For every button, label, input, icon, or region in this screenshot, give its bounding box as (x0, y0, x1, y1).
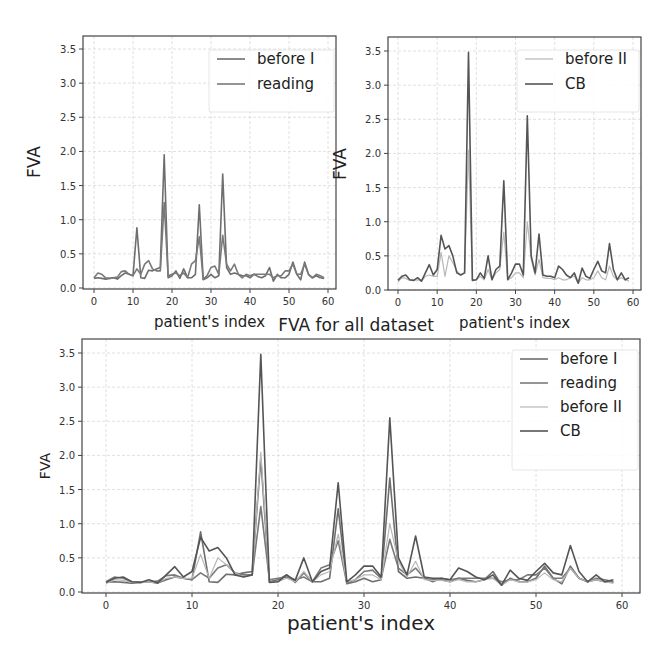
series-line-reading (94, 203, 324, 280)
y-tick-label: 3.5 (59, 348, 75, 359)
x-tick-label: 20 (470, 297, 483, 308)
chart-figure: 01020304050600.00.51.01.52.02.53.03.5pat… (0, 0, 671, 664)
legend-label: before II (565, 50, 627, 68)
x-tick-label: 10 (127, 296, 140, 307)
y-tick-label: 3.5 (365, 46, 381, 57)
y-tick-label: 2.5 (60, 112, 76, 123)
y-tick-label: 0.5 (365, 251, 381, 262)
series-line-before-i (106, 459, 613, 585)
x-tick-label: 40 (444, 600, 457, 611)
y-tick-label: 0.5 (59, 553, 75, 564)
y-tick-label: 0.0 (60, 283, 76, 294)
y-axis-label: FVA (330, 148, 350, 180)
x-tick-label: 40 (548, 297, 561, 308)
y-axis-label: FVA (37, 452, 53, 479)
x-axis-label: patient's index (459, 314, 570, 332)
x-tick-label: 60 (627, 297, 640, 308)
x-tick-label: 60 (616, 600, 629, 611)
subplot-top-right: 01020304050600.00.51.01.52.02.53.03.5pat… (330, 37, 641, 332)
y-tick-label: 0.5 (60, 249, 76, 260)
y-tick-label: 0.0 (59, 587, 75, 598)
legend: before IICB (517, 50, 639, 112)
series-line-before-i (94, 155, 324, 281)
series-line-before-ii (106, 452, 613, 585)
y-tick-label: 2.5 (59, 416, 75, 427)
y-tick-label: 1.0 (60, 215, 76, 226)
legend: before Ireading (209, 50, 334, 112)
x-tick-label: 30 (509, 297, 522, 308)
x-tick-label: 50 (587, 297, 600, 308)
y-tick-label: 1.5 (59, 485, 75, 496)
y-tick-label: 3.0 (59, 382, 75, 393)
x-tick-label: 30 (205, 296, 218, 307)
x-tick-label: 60 (322, 296, 335, 307)
y-tick-label: 1.0 (59, 519, 75, 530)
chart-title: FVA for all dataset (278, 315, 434, 335)
x-tick-label: 50 (283, 296, 296, 307)
legend: before Ireadingbefore IICB (512, 350, 638, 470)
legend-label: before II (560, 398, 622, 416)
x-tick-label: 20 (272, 600, 285, 611)
subplot-bottom: 01020304050600.00.51.01.52.02.53.03.5pat… (37, 315, 640, 635)
y-tick-label: 3.5 (60, 44, 76, 55)
legend-label: before I (560, 350, 617, 368)
series-line-before-ii (398, 150, 629, 283)
y-tick-label: 2.0 (59, 450, 75, 461)
legend-label: before I (257, 50, 314, 68)
legend-label: reading (560, 374, 617, 392)
legend-label: CB (560, 422, 581, 440)
y-tick-label: 1.5 (365, 183, 381, 194)
x-tick-label: 10 (186, 600, 199, 611)
y-axis-label: FVA (24, 146, 44, 178)
y-tick-label: 0.0 (365, 285, 381, 296)
y-tick-label: 1.0 (365, 217, 381, 228)
x-tick-label: 40 (244, 296, 257, 307)
x-tick-label: 0 (103, 600, 109, 611)
legend-label: reading (257, 75, 314, 93)
subplot-top-left: 01020304050600.00.51.01.52.02.53.03.5pat… (24, 36, 336, 331)
x-tick-label: 0 (91, 296, 97, 307)
y-tick-label: 2.0 (365, 148, 381, 159)
x-tick-label: 30 (358, 600, 371, 611)
x-tick-label: 20 (166, 296, 179, 307)
x-tick-label: 0 (395, 297, 401, 308)
y-tick-label: 3.0 (60, 78, 76, 89)
x-tick-label: 10 (431, 297, 444, 308)
legend-label: CB (565, 75, 586, 93)
x-axis-label: patient's index (154, 313, 265, 331)
y-tick-label: 2.5 (365, 114, 381, 125)
y-tick-label: 1.5 (60, 181, 76, 192)
x-axis-label: patient's index (287, 611, 435, 635)
y-tick-label: 2.0 (60, 146, 76, 157)
y-tick-label: 3.0 (365, 80, 381, 91)
x-tick-label: 50 (530, 600, 543, 611)
